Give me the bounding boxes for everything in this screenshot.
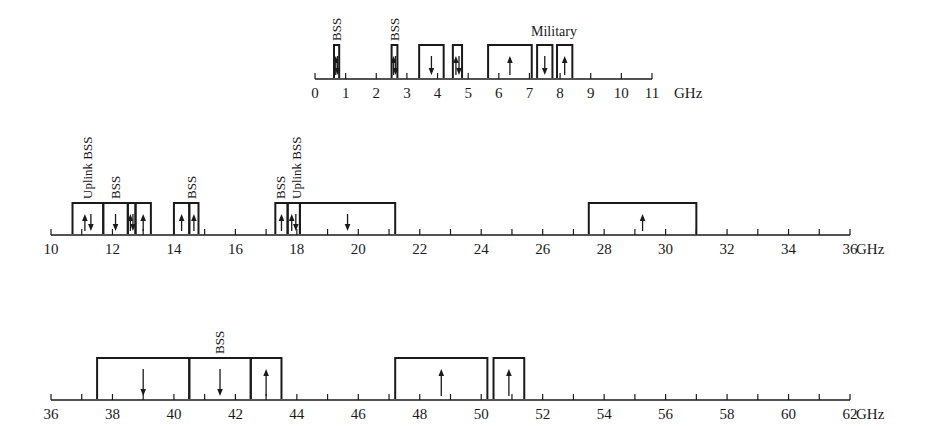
frequency-band: [494, 358, 525, 399]
tick-label: 5: [464, 85, 472, 101]
frequency-row-row-0-11: 01234567891011GHzBSSBSSMilitary: [311, 18, 702, 101]
arrow-up-icon: [438, 369, 444, 376]
band-label: Uplink BSS: [80, 137, 95, 200]
diagram-svg: 01234567891011GHzBSSBSSMilitary101214161…: [0, 0, 938, 426]
band-label: BSS: [212, 331, 227, 354]
tick-label: 42: [228, 406, 243, 422]
tick-label: 30: [658, 241, 673, 257]
band-label: BSS: [387, 18, 402, 41]
band-label: BSS: [273, 176, 288, 199]
frequency-band: BSS: [387, 18, 402, 78]
tick-label: 36: [44, 406, 60, 422]
tick-label: 40: [166, 406, 181, 422]
band-bracket: [73, 203, 104, 234]
tick-label: 60: [781, 406, 796, 422]
tick-label: 56: [658, 406, 674, 422]
tick-label: 22: [412, 241, 427, 257]
tick-label: 46: [351, 406, 367, 422]
arrow-down-icon: [113, 224, 119, 231]
arrow-down-icon: [345, 224, 351, 231]
frequency-band: [103, 203, 128, 234]
band-bracket: [288, 203, 300, 234]
tick-label: 38: [105, 406, 120, 422]
arrow-down-icon: [140, 389, 146, 396]
frequency-band: [275, 203, 287, 234]
arrow-up-icon: [506, 369, 512, 376]
frequency-band: [73, 203, 104, 234]
tick-label: 9: [587, 85, 595, 101]
tick-label: 44: [289, 406, 305, 422]
frequency-row-row-36-62: 3638404244464850525456586062GHzBSS: [44, 331, 885, 422]
arrow-up-icon: [640, 214, 646, 221]
arrow-up-icon: [82, 214, 88, 221]
tick-label: 10: [614, 85, 629, 101]
band-label: BSS: [329, 18, 344, 41]
frequency-band: [251, 358, 282, 399]
tick-label: 1: [342, 85, 350, 101]
arrow-up-icon: [140, 214, 146, 221]
frequency-row-row-10-36: 1012141618202224262830323436GHzUplink BS…: [44, 137, 885, 258]
tick-label: 7: [526, 85, 534, 101]
frequency-band: [136, 203, 151, 234]
frequency-band: [189, 358, 250, 399]
tick-label: 18: [289, 241, 304, 257]
tick-label: 16: [228, 241, 244, 257]
frequency-band: [419, 45, 444, 78]
arrow-up-icon: [179, 214, 185, 221]
frequency-band: [395, 358, 487, 399]
arrow-up-icon: [453, 56, 459, 63]
tick-label: 58: [720, 406, 735, 422]
arrow-up-icon: [562, 56, 568, 63]
arrow-up-icon: [279, 214, 285, 221]
tick-label: 8: [556, 85, 564, 101]
tick-label: 50: [474, 406, 489, 422]
band-label: BSS: [108, 176, 123, 199]
arrow-down-icon: [456, 68, 462, 75]
frequency-allocation-diagram: 01234567891011GHzBSSBSSMilitary101214161…: [0, 0, 938, 426]
tick-label: 12: [105, 241, 120, 257]
arrow-up-icon: [263, 369, 269, 376]
frequency-band: [537, 45, 552, 78]
tick-label: 20: [351, 241, 366, 257]
unit-label: GHz: [674, 85, 703, 101]
frequency-band: [300, 203, 395, 234]
tick-label: 24: [474, 241, 490, 257]
tick-label: 34: [781, 241, 797, 257]
arrow-down-icon: [542, 68, 548, 75]
unit-label: GHz: [856, 241, 885, 257]
tick-label: 48: [412, 406, 427, 422]
arrow-down-icon: [429, 68, 435, 75]
arrow-down-icon: [88, 224, 94, 231]
tick-label: 4: [434, 85, 442, 101]
frequency-band: [488, 45, 532, 78]
frequency-band: [557, 45, 572, 78]
tick-label: 2: [373, 85, 381, 101]
arrow-down-icon: [217, 389, 223, 396]
arrow-up-icon: [507, 56, 513, 63]
tick-label: 26: [535, 241, 551, 257]
band-label: Uplink BSS: [289, 137, 304, 200]
frequency-band: [589, 203, 697, 234]
arrow-up-icon: [289, 214, 295, 221]
group-label: Military: [531, 24, 577, 39]
band-label: BSS: [184, 176, 199, 199]
tick-label: 6: [495, 85, 503, 101]
tick-label: 52: [535, 406, 550, 422]
tick-label: 0: [311, 85, 319, 101]
tick-label: 10: [44, 241, 59, 257]
tick-label: 28: [597, 241, 612, 257]
frequency-band: [174, 203, 189, 234]
frequency-band: [97, 358, 189, 399]
frequency-band: BSS: [329, 18, 344, 78]
frequency-band: [189, 203, 198, 234]
tick-label: 3: [403, 85, 411, 101]
arrow-up-icon: [191, 214, 197, 221]
tick-label: 11: [645, 85, 659, 101]
frequency-band: [288, 203, 300, 234]
tick-label: 14: [166, 241, 182, 257]
arrow-down-icon: [293, 224, 299, 231]
tick-label: 32: [720, 241, 735, 257]
tick-label: 54: [597, 406, 613, 422]
unit-label: GHz: [856, 406, 885, 422]
frequency-band: [453, 45, 462, 78]
